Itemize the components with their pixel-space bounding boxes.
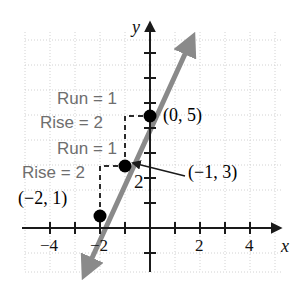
x-axis-name: x <box>281 237 289 255</box>
x-tick-label-2: 2 <box>195 237 204 254</box>
point-neg1-3 <box>119 160 132 173</box>
x-tick-label-neg2: −2 <box>90 237 108 254</box>
point-label-0-5: (0, 5) <box>163 106 202 124</box>
x-tick-label-neg4: −4 <box>40 237 58 254</box>
annotation-run-upper: Run = 1 <box>57 90 117 107</box>
annotation-rise-lower: Rise = 2 <box>22 164 85 181</box>
x-tick-label-4: 4 <box>245 237 254 254</box>
annotation-run-lower: Run = 1 <box>57 140 117 157</box>
y-tick-label-2: 2 <box>134 172 144 191</box>
y-axis-name: y <box>132 18 140 36</box>
point-label-neg1-3: (−1, 3) <box>188 163 237 181</box>
graph-figure: Run = 1 Rise = 2 Run = 1 Rise = 2 (0, 5)… <box>0 0 303 287</box>
point-neg2-1 <box>94 210 107 223</box>
point-label-neg2-1: (−2, 1) <box>18 189 67 207</box>
point-0-5 <box>144 110 157 123</box>
annotation-rise-upper: Rise = 2 <box>40 114 103 131</box>
